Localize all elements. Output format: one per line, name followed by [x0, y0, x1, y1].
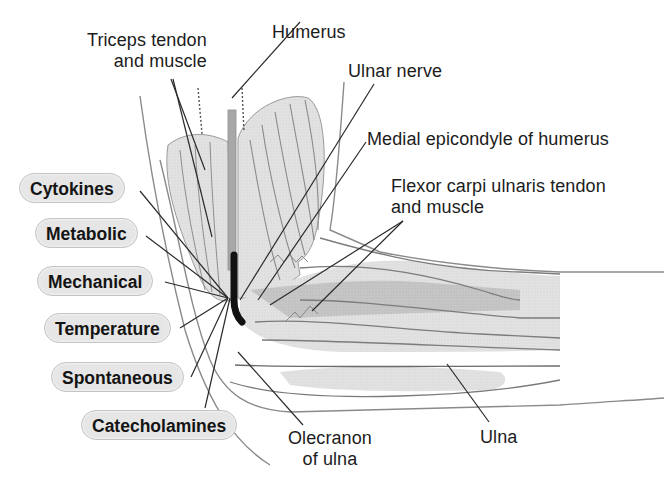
label-medial-epicondyle: Medial epicondyle of humerus [367, 129, 609, 150]
dotted-guides [198, 88, 244, 134]
label-triceps: Triceps tendon and muscle [87, 30, 207, 72]
label-flexor-line2: and muscle [391, 197, 606, 218]
label-triceps-line1: Triceps tendon [87, 30, 207, 51]
pill-cytokines: Cytokines [19, 173, 125, 203]
flexor-muscle-upper [238, 97, 324, 299]
label-olecranon-line1: Olecranon [288, 428, 372, 449]
label-ulnar-nerve: Ulnar nerve [348, 61, 442, 82]
humerus-bone [228, 110, 236, 270]
label-humerus: Humerus [272, 22, 346, 43]
pill-temperature: Temperature [44, 313, 171, 343]
elbow-anatomy-diagram: Triceps tendon and muscle Humerus Ulnar … [0, 0, 664, 485]
label-ulna: Ulna [480, 427, 517, 448]
pill-spontaneous: Spontaneous [51, 362, 184, 392]
pill-metabolic: Metabolic [35, 218, 138, 248]
label-triceps-line2: and muscle [87, 51, 207, 72]
pill-catecholamines: Catecholamines [81, 410, 237, 440]
label-flexor-carpi-ulnaris: Flexor carpi ulnaris tendon and muscle [391, 176, 606, 218]
label-olecranon: Olecranon of ulna [288, 428, 372, 470]
label-flexor-line1: Flexor carpi ulnaris tendon [391, 176, 606, 197]
label-olecranon-line2: of ulna [288, 449, 372, 470]
ulna-bone [230, 365, 560, 397]
pill-mechanical: Mechanical [37, 266, 153, 296]
